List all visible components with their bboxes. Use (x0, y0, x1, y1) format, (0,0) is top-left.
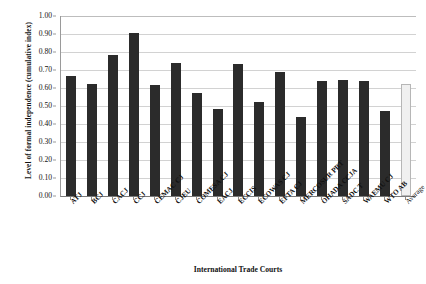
bar-slot (61, 16, 82, 196)
bar-slot (228, 16, 249, 196)
bar (359, 81, 369, 196)
bar (108, 55, 118, 196)
y-tick-label: 0.30 (39, 138, 52, 146)
y-tick-label: 1.00 (39, 12, 52, 20)
plot-area (60, 16, 416, 197)
y-tick-mark (53, 124, 56, 125)
y-tick-mark (53, 142, 56, 143)
bar-slot (103, 16, 124, 196)
y-tick-label: 0.50 (39, 102, 52, 110)
bar (233, 64, 243, 196)
x-axis-category-labels: ATJBCJCACJCCJCEMAC CJCJEUCOMESA CJEACJEC… (60, 200, 416, 258)
y-tick-mark (53, 196, 56, 197)
bar-chart: Level of formal independence (cumulative… (0, 0, 426, 284)
bar-slot (374, 16, 395, 196)
y-tick-label: 0.00 (39, 192, 52, 200)
y-axis-tick-labels: 0.000.100.200.300.400.500.600.700.800.90… (16, 16, 56, 197)
y-tick-mark (53, 106, 56, 107)
y-tick-label: 0.10 (39, 174, 52, 182)
bar-slot (186, 16, 207, 196)
x-axis-title: International Trade Courts (60, 265, 416, 274)
y-tick-label: 0.40 (39, 120, 52, 128)
y-tick-label: 0.80 (39, 48, 52, 56)
bar-slot (270, 16, 291, 196)
y-tick-mark (53, 52, 56, 53)
y-tick-label: 0.90 (39, 30, 52, 38)
y-tick-label: 0.70 (39, 66, 52, 74)
bar-slot (124, 16, 145, 196)
bar (192, 93, 202, 196)
y-tick-mark (53, 34, 56, 35)
bar-slot (82, 16, 103, 196)
y-tick-label: 0.60 (39, 84, 52, 92)
bar-slot (207, 16, 228, 196)
bar (254, 102, 264, 197)
bar-slot (395, 16, 416, 196)
y-tick-mark (53, 16, 56, 17)
bar-slot (165, 16, 186, 196)
y-tick-mark (53, 160, 56, 161)
bar (87, 84, 97, 196)
y-tick-mark (53, 178, 56, 179)
bar-slot (145, 16, 166, 196)
bars-layer (61, 16, 416, 196)
y-tick-mark (53, 88, 56, 89)
bar (150, 85, 160, 196)
bar (66, 76, 76, 196)
bar-slot (249, 16, 270, 196)
bar-slot (291, 16, 312, 196)
y-tick-label: 0.20 (39, 156, 52, 164)
y-tick-mark (53, 70, 56, 71)
bar (129, 33, 139, 196)
